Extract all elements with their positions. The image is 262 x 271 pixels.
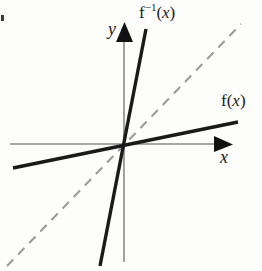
curve-label-f-inverse: f−1(x) — [139, 4, 175, 21]
f-inverse-exponent: −1 — [145, 1, 157, 13]
f-inverse-close-paren: ) — [170, 3, 176, 22]
graph-canvas — [0, 0, 262, 271]
f-arg: x — [232, 91, 240, 110]
f-inverse-arg: x — [162, 3, 170, 22]
f-close-paren: ) — [240, 91, 246, 110]
x-axis-label: x — [220, 148, 228, 166]
y-axis-arrowhead-icon — [116, 22, 133, 42]
inverse-function-graph-figure: f−1(x) f(x) y x — [0, 0, 262, 271]
curve-label-f: f(x) — [221, 92, 246, 109]
y-axis-label: y — [108, 20, 116, 38]
